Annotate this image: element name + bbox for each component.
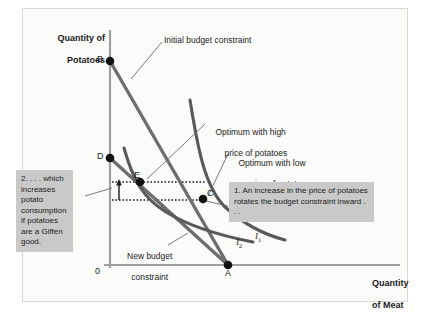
leader-optimum-high xyxy=(147,124,205,179)
y-axis-label: Quantity of Potatoes xyxy=(36,22,105,77)
point-label-B: B xyxy=(97,54,103,64)
leader-initial-budget xyxy=(131,42,162,79)
y-axis-label-line1: Quantity of xyxy=(58,33,106,43)
point-B xyxy=(106,57,115,66)
annotation-new-budget-line1: New budget xyxy=(127,251,172,261)
leader-callout-2 xyxy=(85,188,112,196)
curve-label-i1: I1 xyxy=(255,231,261,243)
figure-canvas: Quantity of Potatoes Quantity of Meat 0 … xyxy=(0,0,430,315)
origin-label: 0 xyxy=(95,266,100,276)
point-label-A: A xyxy=(225,268,231,278)
x-axis-label-line1: Quantity xyxy=(372,278,409,288)
annotation-optimum-high-line1: Optimum with high xyxy=(215,127,285,137)
callout-1-price-increase-rotates-budget: 1. An increase in the price of potatoes … xyxy=(229,182,374,222)
annotation-new-budget-line2: constraint xyxy=(131,272,168,282)
curve-label-i2-sub: 2 xyxy=(239,242,242,249)
point-label-C: C xyxy=(207,188,214,198)
point-label-D: D xyxy=(97,151,104,161)
x-axis-label-line2: of Meat xyxy=(372,300,404,310)
point-label-E: E xyxy=(134,170,140,180)
x-axis-label: Quantity of Meat xyxy=(362,267,426,315)
curve-label-i2: I2 xyxy=(236,237,242,249)
leader-callout-1 xyxy=(206,201,228,206)
point-D xyxy=(106,154,115,163)
annotation-new-budget-constraint: New budget constraint xyxy=(114,240,176,293)
annotation-optimum-low-line1: Optimum with low xyxy=(238,158,305,168)
curve-label-i1-sub: 1 xyxy=(258,236,261,243)
annotation-initial-budget-constraint: Initial budget constraint xyxy=(164,35,251,46)
callout-2-increases-potato-consumption: 2. . . . which increases potato consumpt… xyxy=(16,170,73,252)
point-C xyxy=(199,195,208,204)
